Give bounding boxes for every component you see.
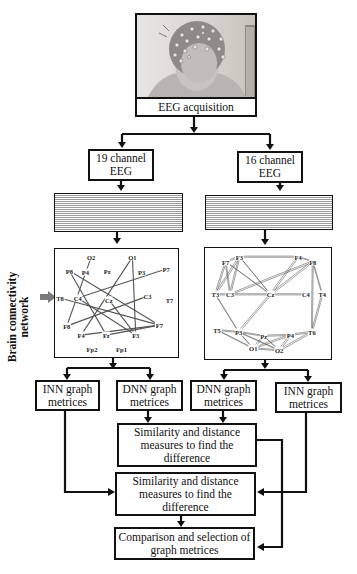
left-dnn-metrics-box: DNN graph metrices bbox=[116, 380, 183, 411]
right-inn-line2: metrices bbox=[289, 398, 328, 411]
graph-node-p4: P4 bbox=[81, 268, 89, 275]
graph-node-pz: Pz bbox=[260, 332, 268, 339]
right-eeg-signal-panel bbox=[205, 195, 333, 230]
right-inn-line1: INN graph bbox=[284, 385, 334, 398]
inn-similarity-line3: difference bbox=[162, 501, 208, 514]
left-eeg-signal-panel bbox=[54, 193, 183, 232]
graph-node-c4: C4 bbox=[73, 294, 82, 301]
dnn-similarity-line1: Similarity and distance bbox=[134, 426, 240, 439]
graph-edge bbox=[312, 295, 322, 333]
left-graph-edges bbox=[55, 249, 177, 356]
graph-edge bbox=[311, 261, 312, 331]
graph-edge bbox=[229, 261, 312, 294]
graph-edge bbox=[132, 257, 135, 335]
graph-node-p3: P3 bbox=[234, 328, 242, 335]
right-dnn-line2: metrices bbox=[204, 396, 243, 409]
right-connectivity-graph: F3F4F7F8T3C3CzC4T4T5P3PzP4T6O1O2 bbox=[204, 247, 332, 360]
graph-node-cz: Cz bbox=[105, 296, 114, 303]
graph-node-pz: Pz bbox=[103, 267, 111, 274]
graph-node-cz: Cz bbox=[266, 291, 275, 298]
left-channel-label-line1: 19 channel bbox=[96, 152, 146, 165]
graph-edge bbox=[270, 261, 312, 294]
left-channel-label-line2: EEG bbox=[110, 165, 132, 178]
inn-similarity-line2: measures to find the bbox=[139, 488, 232, 501]
graph-node-f3: F3 bbox=[132, 332, 140, 339]
final-line2: graph metrices bbox=[150, 544, 218, 557]
graph-node-t4: T4 bbox=[318, 291, 327, 298]
left-inn-line1: INN graph bbox=[43, 383, 93, 396]
graph-node-o1: O1 bbox=[249, 345, 258, 352]
right-dnn-metrics-box: DNN graph metrices bbox=[190, 380, 257, 411]
graph-node-c4: C4 bbox=[301, 291, 310, 298]
graph-edge bbox=[229, 256, 238, 294]
graph-node-t6: T6 bbox=[308, 328, 317, 335]
graph-edge bbox=[231, 257, 240, 295]
left-dnn-line1: DNN graph bbox=[123, 383, 177, 396]
graph-node-p4: P4 bbox=[286, 331, 294, 338]
left-inn-line2: metrices bbox=[48, 396, 87, 409]
graph-node-fz: Fz bbox=[102, 332, 110, 339]
graph-edge bbox=[312, 261, 321, 294]
graph-edge bbox=[270, 256, 298, 294]
right-channel-label-line2: EEG bbox=[259, 167, 281, 180]
left-inn-metrics-box: INN graph metrices bbox=[35, 380, 100, 411]
graph-node-fp1: Fp1 bbox=[116, 345, 128, 352]
inn-similarity-line1: Similarity and distance bbox=[132, 475, 238, 488]
left-dnn-line2: metrices bbox=[130, 396, 169, 409]
graph-node-c3: C3 bbox=[143, 293, 152, 300]
right-inn-metrics-box: INN graph metrices bbox=[275, 382, 342, 413]
graph-node-t7: T7 bbox=[165, 296, 174, 303]
inn-similarity-box: Similarity and distance measures to find… bbox=[115, 472, 256, 516]
graph-node-o2: O2 bbox=[87, 254, 96, 261]
graph-node-p8: P8 bbox=[65, 267, 73, 274]
graph-node-t5: T5 bbox=[213, 327, 222, 334]
brain-connectivity-label: Brain connectivitynetwork bbox=[8, 262, 28, 372]
left-connectivity-graph: O2O1P8P4PzP3P7T8C4CzC3T7F8F7F4FzF3Fp2Fp1 bbox=[54, 248, 179, 358]
left-channel-box: 19 channel EEG bbox=[88, 149, 154, 181]
right-channel-label-line1: 16 channel bbox=[245, 154, 295, 167]
graph-node-f3: F3 bbox=[235, 253, 243, 260]
dnn-similarity-line2: measures to find the bbox=[141, 439, 234, 452]
graph-edge bbox=[271, 257, 299, 295]
graph-node-f7: F7 bbox=[222, 258, 230, 265]
final-line1: Comparison and selection of bbox=[119, 531, 251, 544]
graph-node-p7: P7 bbox=[162, 265, 170, 272]
graph-node-o2: O2 bbox=[274, 347, 283, 354]
graph-edge bbox=[239, 295, 271, 333]
graph-edge bbox=[238, 294, 270, 332]
graph-node-t8: T8 bbox=[56, 294, 65, 301]
side-label-line1: Brain connectivity bbox=[6, 272, 18, 362]
graph-node-p3: P3 bbox=[138, 268, 146, 275]
graph-node-t3: T3 bbox=[211, 291, 220, 298]
graph-node-f7: F7 bbox=[155, 322, 163, 329]
right-channel-box: 16 channel EEG bbox=[237, 151, 303, 183]
graph-node-o1: O1 bbox=[128, 254, 137, 261]
graph-node-f8: F8 bbox=[63, 323, 71, 330]
graph-node-c3: C3 bbox=[226, 291, 235, 298]
dnn-similarity-line3: difference bbox=[164, 452, 210, 465]
graph-node-fp2: Fp2 bbox=[86, 345, 98, 352]
right-dnn-line1: DNN graph bbox=[197, 383, 251, 396]
dnn-similarity-box: Similarity and distance measures to find… bbox=[117, 423, 257, 467]
graph-node-f8: F8 bbox=[309, 258, 317, 265]
graph-edge bbox=[312, 262, 313, 332]
graph-node-f4: F4 bbox=[77, 332, 85, 339]
side-label-line2: network bbox=[18, 272, 30, 362]
graph-edge bbox=[81, 325, 159, 335]
comparison-selection-box: Comparison and selection of graph metric… bbox=[114, 527, 255, 560]
graph-node-f4: F4 bbox=[294, 253, 302, 260]
